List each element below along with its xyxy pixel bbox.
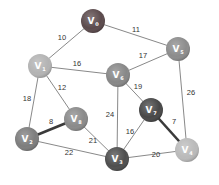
node-v4: V4	[175, 138, 199, 162]
edge-weight-label: 21	[89, 136, 97, 145]
node-label: V	[173, 44, 180, 54]
edge-v6-v3	[117, 75, 118, 159]
edge-weight-label: 8	[49, 117, 53, 126]
node-label: V	[182, 145, 189, 155]
node-subscript: 1	[42, 66, 46, 72]
edge-weight-label: 12	[58, 83, 66, 92]
node-label: V	[71, 114, 78, 124]
node-label: V	[35, 61, 42, 71]
edge-weight-label: 22	[65, 148, 73, 157]
node-v1: V1	[28, 54, 52, 78]
node-subscript: 8	[78, 119, 82, 125]
node-v8: V8	[64, 107, 88, 131]
edge-v5-v4	[178, 49, 187, 150]
edge-weight-label: 11	[132, 25, 140, 34]
node-v5: V5	[166, 37, 190, 61]
node-label: V	[22, 134, 29, 144]
node-label: V	[88, 16, 95, 26]
edge-weight-label: 10	[58, 33, 66, 42]
edge-weight-label: 16	[73, 59, 81, 68]
graph-diagram: 1011161712181924268721221620 V0V1V2V3V4V…	[0, 0, 219, 185]
edge-weight-label: 16	[126, 127, 134, 136]
edge-weight-label: 24	[106, 110, 114, 119]
node-v3: V3	[105, 147, 129, 171]
edge-weight-label: 17	[139, 51, 147, 60]
node-subscript: 5	[180, 49, 184, 55]
edge-weight-label: 19	[134, 82, 142, 91]
node-subscript: 0	[95, 21, 99, 27]
nodes-layer: V0V1V2V3V4V5V6V7V8	[15, 9, 199, 171]
node-v6: V6	[106, 63, 130, 87]
edges-layer	[27, 21, 187, 159]
node-v2: V2	[15, 127, 39, 151]
node-label: V	[112, 154, 119, 164]
edge-weight-label: 26	[187, 88, 195, 97]
node-v7: V7	[139, 98, 163, 122]
edge-weight-label: 20	[152, 150, 160, 159]
node-subscript: 7	[153, 110, 157, 116]
edge-weight-label: 18	[23, 94, 31, 103]
node-subscript: 3	[119, 159, 123, 165]
node-subscript: 2	[29, 139, 33, 145]
node-subscript: 4	[189, 150, 193, 156]
node-subscript: 6	[120, 75, 124, 81]
node-label: V	[113, 70, 120, 80]
edge-weight-label: 7	[172, 117, 176, 126]
node-label: V	[146, 105, 153, 115]
node-v0: V0	[81, 9, 105, 33]
